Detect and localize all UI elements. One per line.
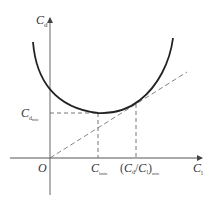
origin-label: O — [38, 161, 47, 175]
y-axis-label: Cd — [36, 13, 48, 29]
cd-min-label: Cdmin — [21, 106, 38, 122]
x-axis-label: Cl — [193, 161, 203, 177]
cl-min-label: Clmin — [91, 161, 108, 176]
tangent-dashed-line — [50, 72, 187, 158]
drag-polar-diagram: Cd Cdmin O Clmin (Cd/Cl)min Cl — [0, 0, 215, 197]
ratio-min-label: (Cd/Cl)min — [120, 161, 160, 176]
drag-polar-curve — [33, 38, 173, 113]
